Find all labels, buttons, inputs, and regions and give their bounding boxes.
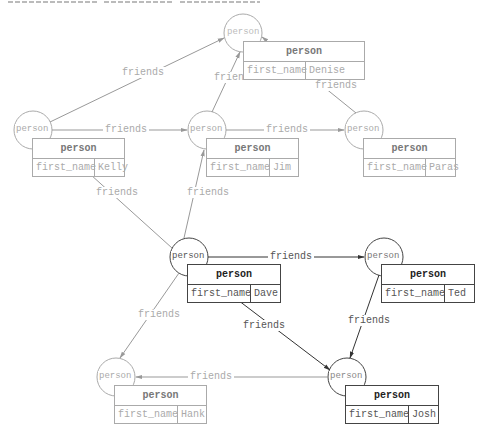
edge-label-ted-josh: friends [346, 315, 392, 326]
edge-label-josh-hank: friends [188, 371, 234, 382]
edge-label-dave-josh: friends [241, 320, 287, 331]
field-value: Ted [445, 285, 469, 302]
node-type-label: person [346, 386, 438, 406]
node-type-label: person [207, 139, 298, 159]
circle-label-denise: person [226, 27, 260, 37]
field-value: Hank [178, 406, 208, 423]
edge-label-jim-paras: friends [264, 124, 310, 135]
circle-label-kelly: person [15, 124, 49, 134]
field-value: Paras [426, 159, 462, 176]
node-box-jim[interactable]: person first_nameJim [206, 138, 299, 177]
node-type-label: person [382, 265, 474, 285]
field-name: first_name [188, 285, 251, 302]
circle-label-dave: person [171, 251, 205, 261]
field-name: first_name [244, 62, 306, 79]
edge-label-dave-ted: friends [268, 251, 314, 262]
field-name: first_name [346, 406, 409, 423]
node-type-label: person [364, 139, 455, 159]
circle-label-ted: person [366, 251, 400, 261]
edge-label-dave-kelly: friends [94, 187, 140, 198]
edge-label-kelly-jim: friends [103, 124, 149, 135]
node-box-josh[interactable]: person first_nameJosh [345, 385, 439, 424]
edge-label-dave-jim: friends [185, 187, 231, 198]
field-value: Kelly [95, 159, 131, 176]
field-name: first_name [33, 159, 95, 176]
node-box-kelly[interactable]: person first_nameKelly [32, 138, 125, 177]
graph-canvas: person person person person person perso… [0, 0, 487, 428]
field-name: first_name [115, 406, 178, 423]
node-type-label: person [115, 386, 206, 406]
node-box-ted[interactable]: person first_nameTed [381, 264, 475, 303]
circle-label-paras: person [346, 124, 380, 134]
edge-label-kelly-denise: friends [120, 67, 166, 78]
node-type-label: person [244, 42, 364, 62]
edge-kelly-denise[interactable] [50, 38, 224, 122]
field-value: Denise [306, 62, 348, 79]
node-box-denise[interactable]: person first_nameDenise [243, 41, 365, 80]
circle-label-josh: person [329, 371, 363, 381]
circle-label-jim: person [189, 124, 223, 134]
field-name: first_name [382, 285, 445, 302]
node-box-paras[interactable]: person first_nameParas [363, 138, 456, 177]
edge-label-dave-hank: friends [136, 309, 182, 320]
node-type-label: person [33, 139, 124, 159]
node-type-label: person [188, 265, 280, 285]
field-value: Dave [251, 285, 281, 302]
edge-label-paras-denise: friends [313, 80, 359, 91]
field-value: Jim [270, 159, 294, 176]
field-name: first_name [207, 159, 270, 176]
field-name: first_name [364, 159, 426, 176]
field-value: Josh [409, 406, 439, 423]
circle-label-hank: person [98, 371, 132, 381]
node-box-hank[interactable]: person first_nameHank [114, 385, 207, 424]
node-box-dave[interactable]: person first_nameDave [187, 264, 281, 303]
